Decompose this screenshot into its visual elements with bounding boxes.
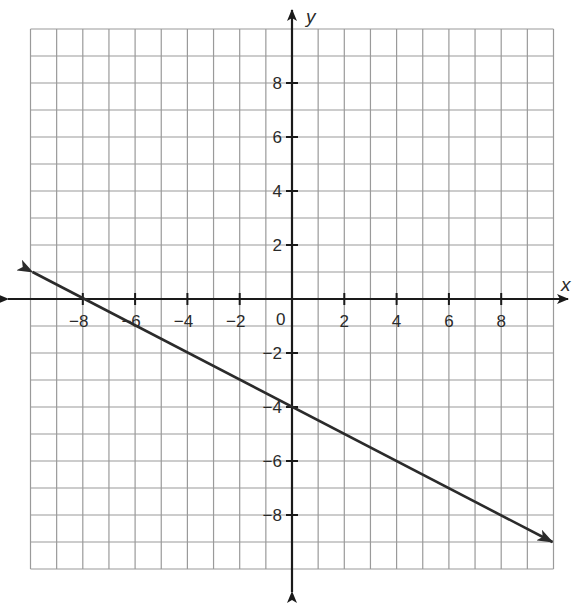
y-tick-label: 8: [273, 74, 282, 93]
x-tick-label: 8: [496, 312, 505, 331]
coordinate-plane: −8−6−4−22468−8−6−4−22468 x y 0: [0, 0, 575, 607]
y-tick-label: 4: [273, 182, 282, 201]
axes: [8, 10, 568, 592]
x-tick-label: 2: [340, 312, 349, 331]
x-tick-label: −2: [226, 312, 245, 331]
y-axis-label: y: [304, 6, 317, 27]
origin-label: 0: [276, 310, 285, 329]
y-tick-label: −2: [263, 344, 282, 363]
x-axis-label: x: [560, 274, 572, 295]
y-tick-label: 2: [273, 236, 282, 255]
x-tick-label: −4: [174, 312, 193, 331]
y-tick-label: −8: [263, 506, 282, 525]
x-tick-label: 4: [392, 312, 401, 331]
y-tick-label: 6: [273, 128, 282, 147]
y-tick-label: −6: [263, 452, 282, 471]
x-tick-label: −8: [69, 312, 88, 331]
x-tick-label: 6: [444, 312, 453, 331]
